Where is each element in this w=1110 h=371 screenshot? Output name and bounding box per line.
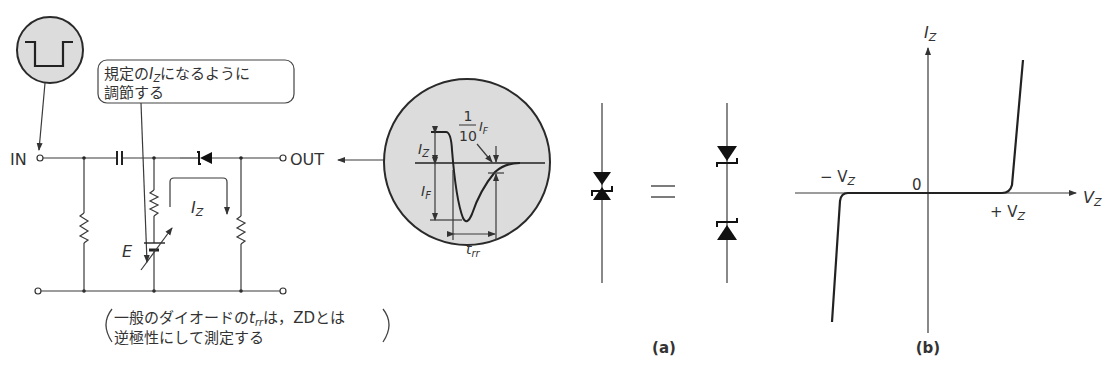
zener-diode-symbol [197, 152, 212, 164]
callout-pointer-arrow [141, 103, 147, 262]
iz-sub: Z [421, 148, 430, 159]
fraction-denominator: 10 [459, 128, 477, 144]
in-terminal [37, 155, 43, 161]
svg-text:IZ: IZ [924, 23, 937, 44]
note-text-1a: 一般のダイオードの [114, 309, 249, 327]
callout-text-1b: になるように [160, 65, 250, 83]
callout-text-1a: 規定の [104, 65, 149, 83]
caption-b: (b) [916, 339, 940, 357]
zener-up-icon [593, 187, 611, 200]
in-label: IN [10, 150, 27, 169]
svg-text:− VZ: − VZ [820, 168, 856, 188]
zener-down-icon [593, 172, 611, 185]
neg-vz-label: − V [820, 168, 848, 186]
origin-label: 0 [912, 176, 922, 194]
resistor-load [237, 216, 245, 244]
bottom-left-terminal [35, 288, 41, 294]
svg-text:VZ: VZ [1083, 188, 1102, 209]
zener-bottom-icon [717, 225, 737, 240]
current-sub: Z [195, 206, 204, 219]
svg-text:規定のIZになるように: 規定のIZになるように [104, 65, 250, 84]
adjust-callout: 規定のIZになるように 調節する [98, 60, 294, 262]
test-circuit: IN OUT E [10, 150, 384, 294]
source-label: E [122, 242, 133, 261]
svg-text:+ VZ: + VZ [990, 203, 1026, 223]
note-text-1b: は，ZDとは [263, 309, 345, 327]
x-axis-sub: Z [1093, 196, 1102, 209]
fraction-numerator: 1 [464, 108, 473, 124]
polarity-note: 一般のダイオードのtrrは，ZDとは 逆極性にして測定する [106, 309, 389, 347]
fraction-sub: F [483, 126, 489, 136]
svg-text:IZ: IZ [191, 198, 204, 219]
figure-b-iv-characteristic: IZ VZ 0 − VZ + VZ (b) [795, 23, 1102, 357]
figure-a-bidirectional-zener: (a) [592, 103, 737, 357]
out-terminal [280, 155, 286, 161]
if-sub: F [425, 190, 431, 201]
input-pulse-scope [17, 17, 83, 150]
neg-vz-sub: Z [847, 175, 856, 188]
zener-top-icon [717, 146, 737, 161]
resistor-middle [150, 190, 158, 216]
svg-text:一般のダイオードのtrrは，ZDとは: 一般のダイオードのtrrは，ZDとは [114, 309, 345, 328]
y-axis-sub: Z [928, 31, 937, 44]
pos-vz-sub: Z [1017, 210, 1026, 223]
input-pointer-arrow [39, 83, 45, 150]
diagram-canvas: 規定のIZになるように 調節する IN OUT [0, 0, 1110, 371]
trr-sub: rr [472, 248, 481, 259]
bottom-right-terminal [280, 288, 286, 294]
note-text-2: 逆極性にして測定する [114, 329, 264, 347]
caption-a: (a) [652, 339, 676, 357]
recovery-waveform-scope: IZ IF 1 10 IF trr [384, 79, 550, 259]
pos-vz-label: + V [990, 203, 1018, 221]
resistor-left [80, 213, 88, 243]
callout-text-2: 調節する [104, 84, 164, 102]
out-label: OUT [290, 150, 324, 169]
